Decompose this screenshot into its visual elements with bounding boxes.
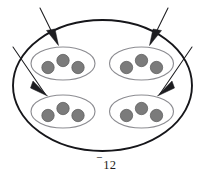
arrow-to-bottom-left-set xyxy=(13,47,48,96)
inner-set-group-top-right xyxy=(110,47,174,80)
caption-negative-sign: ⁻ xyxy=(96,153,103,167)
figure-container: ⁻12 xyxy=(0,0,205,174)
arrow-shaft xyxy=(160,47,193,95)
set-element-dot xyxy=(135,54,147,66)
arrow-head-icon xyxy=(31,81,48,96)
set-element-dot xyxy=(135,102,147,114)
set-element-dot xyxy=(150,109,162,121)
set-element-dot xyxy=(57,54,69,66)
set-element-dot xyxy=(120,109,132,121)
arrow-head-icon xyxy=(47,29,59,46)
inner-set-group-top-left xyxy=(31,47,95,80)
arrow-head-icon xyxy=(158,81,175,96)
arrow-to-bottom-right-set xyxy=(158,47,193,96)
arrow-to-top-left-set xyxy=(40,8,59,46)
set-element-dot xyxy=(120,61,132,73)
set-element-dot xyxy=(57,102,69,114)
arrow-shaft xyxy=(13,47,46,95)
inner-set-group-bottom-left xyxy=(31,95,95,128)
set-element-dot xyxy=(42,109,54,121)
set-element-dot xyxy=(72,61,84,73)
set-element-dot xyxy=(72,109,84,121)
set-element-dot xyxy=(42,61,54,73)
inner-set-group-bottom-right xyxy=(110,95,174,128)
set-element-dot xyxy=(150,61,162,73)
caption-number: 12 xyxy=(103,158,116,172)
figure-caption: ⁻12 xyxy=(96,153,116,172)
set-diagram-svg: ⁻12 xyxy=(0,0,205,174)
